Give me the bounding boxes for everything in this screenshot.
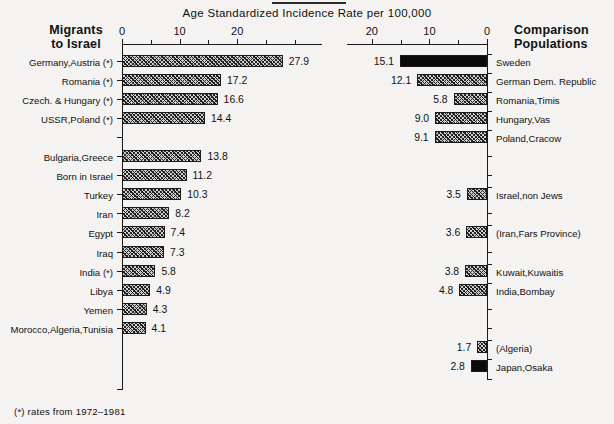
left-axis-major-tick	[180, 39, 181, 44]
bar-value-label: 17.2	[227, 76, 247, 86]
bar	[467, 188, 487, 200]
row-label: Libya	[90, 287, 113, 297]
row-label: Egypt	[88, 229, 113, 239]
bar	[466, 226, 487, 238]
right-axis-row-tick	[487, 111, 492, 112]
bar-value-label: 4.1	[152, 324, 166, 334]
right-panel-heading-line2: Populations	[514, 38, 588, 51]
left-axis-tick-label: 20	[231, 26, 243, 37]
bar	[122, 226, 165, 238]
right-axis-row-tick	[487, 187, 492, 188]
bar-value-label: 11.2	[193, 171, 212, 181]
bar	[122, 112, 205, 124]
left-axis-minor-tick	[208, 40, 209, 44]
row-label: (Iran,Fars Province)	[496, 229, 581, 239]
row-label: Israel,non Jews	[496, 191, 563, 201]
bar	[435, 112, 487, 124]
row-label: Iraq	[96, 249, 113, 259]
bar	[122, 303, 147, 315]
bar	[122, 150, 201, 162]
left-panel-heading-line2: to Israel	[51, 38, 101, 51]
bar-value-label: 14.4	[211, 114, 231, 124]
right-axis-major-tick	[429, 39, 430, 44]
bar	[400, 55, 487, 67]
bar	[122, 265, 155, 277]
row-label: Japan,Osaka	[496, 363, 553, 373]
right-axis-row-tick	[487, 359, 492, 360]
right-axis-row-tick	[487, 309, 492, 310]
right-axis-row-tick	[487, 130, 492, 131]
right-axis-row-tick	[487, 340, 492, 341]
row-label: Yemen	[83, 306, 113, 316]
left-axis-minor-tick	[151, 40, 152, 44]
bar-value-label: 9.1	[414, 133, 428, 143]
bar-value-label: 4.3	[153, 305, 167, 315]
row-label: Sweden	[496, 58, 531, 68]
bar-value-label: 5.8	[161, 267, 175, 277]
row-label: Born in Israel	[56, 172, 113, 182]
right-axis-row-tick	[487, 252, 492, 253]
right-axis-row-tick	[487, 213, 492, 214]
row-label: Iran	[96, 210, 113, 220]
left-axis-bottom-tick	[117, 389, 122, 390]
row-label: German Dem. Republic	[496, 77, 596, 87]
row-label: Romania (*)	[62, 77, 113, 87]
right-axis-row-tick	[487, 264, 492, 265]
right-axis-bottom-tick	[487, 379, 492, 380]
bar	[417, 74, 487, 86]
row-label: Morocco,Algeria,Tunisia	[10, 325, 113, 335]
row-label: Poland,Cracow	[496, 134, 561, 144]
scan-artifact-line	[272, 2, 346, 4]
right-axis-row-tick	[487, 54, 492, 55]
right-axis-vertical	[487, 44, 488, 380]
row-label: Romania,Timis	[496, 96, 560, 106]
bar-value-label: 7.3	[170, 248, 184, 258]
left-axis-minor-tick	[266, 40, 267, 44]
bar	[122, 93, 218, 105]
right-axis-tick-label: 0	[484, 26, 490, 37]
row-label: (Algeria)	[496, 344, 532, 354]
right-axis-line	[347, 44, 487, 45]
bar-value-label: 3.8	[445, 267, 459, 277]
bar	[122, 188, 181, 200]
right-axis-row-tick	[487, 225, 492, 226]
left-axis-tick-label: 0	[119, 26, 125, 37]
row-label: India,Bombay	[496, 287, 555, 297]
bar-value-label: 5.8	[433, 95, 447, 105]
right-axis-major-tick	[372, 39, 373, 44]
row-label: Czech. & Hungary (*)	[22, 96, 113, 106]
row-label: India (*)	[79, 268, 113, 278]
bar	[122, 284, 150, 296]
bar-value-label: 9.0	[415, 114, 429, 124]
incidence-rate-chart: Age Standardized Incidence Rate per 100,…	[0, 0, 614, 424]
right-axis-row-tick	[487, 328, 492, 329]
right-axis-tick-label: 10	[423, 26, 435, 37]
right-axis-tick-label: 20	[366, 26, 378, 37]
bar	[122, 207, 169, 219]
row-label: Hungary,Vas	[496, 115, 550, 125]
bar	[465, 265, 487, 277]
bar	[459, 284, 487, 296]
right-axis-row-tick	[487, 156, 492, 157]
bar-value-label: 27.9	[289, 57, 309, 67]
left-axis-line	[122, 44, 322, 45]
left-axis-tick-label: 10	[173, 26, 185, 37]
right-axis-major-tick	[487, 39, 488, 44]
bar-value-label: 4.8	[439, 286, 453, 296]
left-axis-major-tick	[237, 39, 238, 44]
row-label: USSR,Poland (*)	[41, 115, 113, 125]
row-label: Kuwait,Kuwaitis	[496, 268, 563, 278]
footnote: (*) rates from 1972–1981	[14, 407, 125, 417]
bar-value-label: 13.8	[207, 152, 227, 162]
bar-value-label: 16.6	[224, 95, 244, 105]
right-axis-row-tick	[487, 175, 492, 176]
bar	[122, 74, 221, 86]
right-axis-row-tick	[487, 92, 492, 93]
bar	[477, 341, 487, 353]
bar	[122, 55, 283, 67]
right-axis-row-tick	[487, 283, 492, 284]
bar-value-label: 3.6	[446, 228, 460, 238]
row-label: Bulgaria,Greece	[44, 153, 113, 163]
bar-value-label: 4.9	[156, 286, 170, 296]
right-axis-minor-tick	[401, 40, 402, 44]
